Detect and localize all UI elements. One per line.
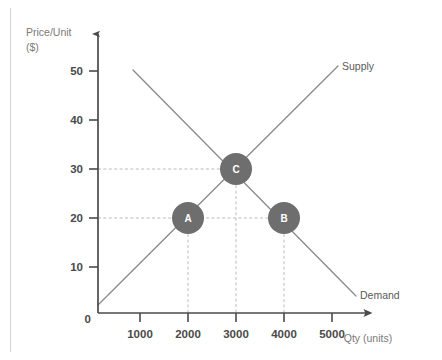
y-axis-tick-labels: 50 40 30 20 10 xyxy=(70,65,83,273)
guide-lines xyxy=(98,169,290,313)
origin-label: 0 xyxy=(85,313,91,325)
marker-a-label: A xyxy=(184,213,191,224)
x-tick-label-2000: 2000 xyxy=(175,328,201,340)
y-axis-title-line1: Price/Unit xyxy=(26,26,72,38)
chart-canvas: 50 40 30 20 10 1000 2000 3000 4000 5000 … xyxy=(0,0,442,360)
marker-c-label: C xyxy=(232,164,239,175)
x-tick-label-1000: 1000 xyxy=(127,328,153,340)
x-axis-ticks xyxy=(140,313,332,322)
supply-curve xyxy=(98,66,338,305)
supply-demand-chart: 50 40 30 20 10 1000 2000 3000 4000 5000 … xyxy=(0,0,442,360)
y-tick-label-30: 30 xyxy=(70,163,83,175)
x-tick-label-4000: 4000 xyxy=(271,328,297,340)
x-tick-label-5000: 5000 xyxy=(319,328,345,340)
supply-curve-label: Supply xyxy=(342,60,375,72)
y-tick-label-20: 20 xyxy=(70,212,83,224)
y-tick-label-50: 50 xyxy=(70,65,83,77)
y-tick-label-40: 40 xyxy=(70,114,83,126)
demand-curve xyxy=(133,70,356,296)
data-point-marker-a[interactable]: A xyxy=(172,202,204,234)
x-axis-tick-labels: 1000 2000 3000 4000 5000 xyxy=(127,328,345,340)
y-axis-ticks xyxy=(89,71,98,267)
y-axis-title-line2: ($) xyxy=(26,41,39,53)
marker-b-label: B xyxy=(280,213,287,224)
data-point-marker-b[interactable]: B xyxy=(268,202,300,234)
data-point-marker-c[interactable]: C xyxy=(220,153,252,185)
demand-curve-label: Demand xyxy=(360,289,400,301)
x-tick-label-3000: 3000 xyxy=(223,328,249,340)
curves xyxy=(98,66,356,305)
x-axis-title: Qty (units) xyxy=(344,332,392,344)
y-tick-label-10: 10 xyxy=(70,261,83,273)
